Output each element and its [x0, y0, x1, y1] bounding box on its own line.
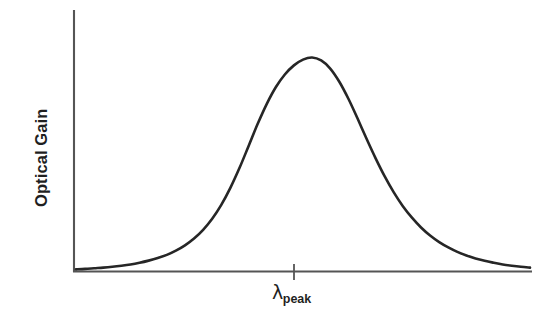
y-axis-label: Optical Gain — [32, 109, 51, 207]
lambda-symbol: λ — [272, 281, 283, 303]
optical-gain-chart: Optical Gain λpeak — [0, 0, 558, 319]
x-axis-label: λpeak — [272, 283, 312, 302]
chart-plot-area — [0, 0, 558, 319]
lambda-subscript-peak: peak — [283, 292, 312, 306]
